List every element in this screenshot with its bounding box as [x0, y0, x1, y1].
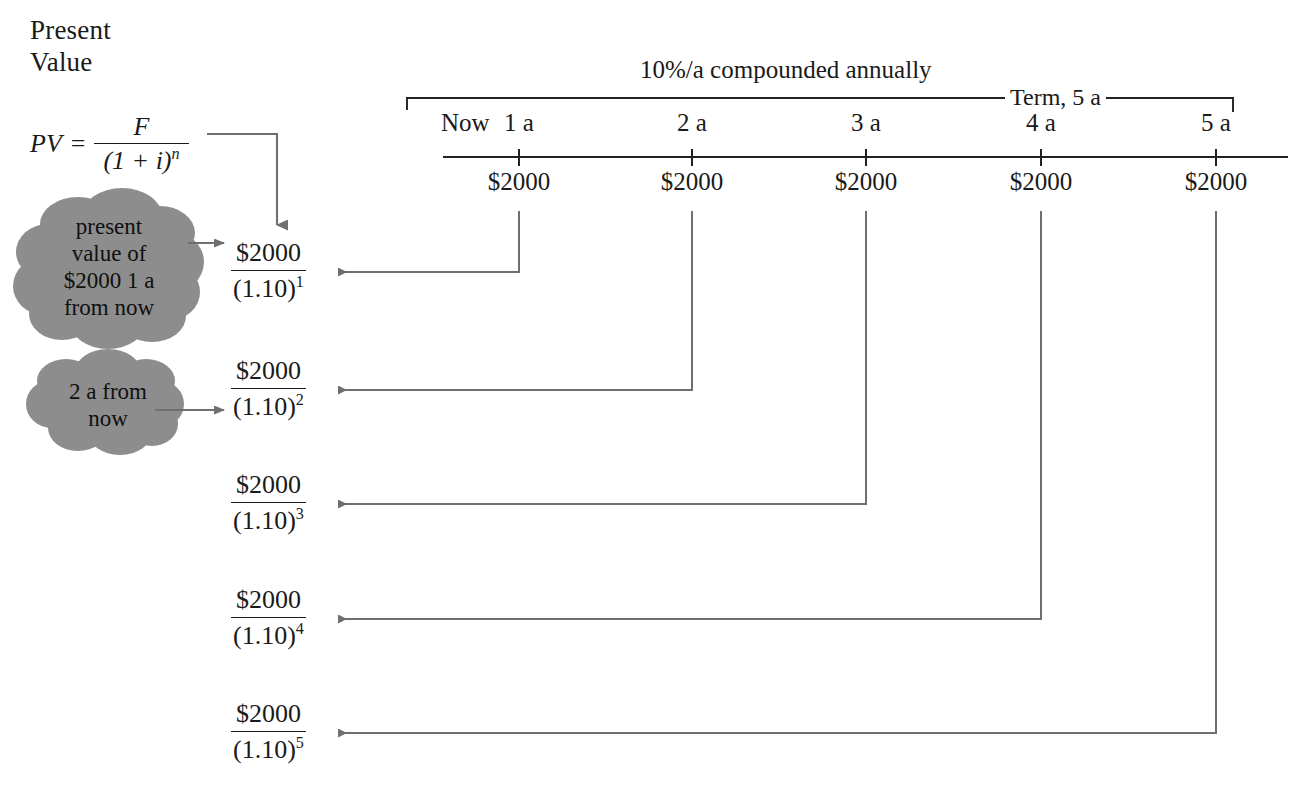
discount-connector-3: [338, 211, 866, 504]
pv-term-4-denominator: (1.10)4: [231, 617, 306, 651]
present-value-term-5: $2000 (1.10)5: [231, 699, 306, 765]
pv-term-3-numerator: $2000: [234, 470, 303, 502]
timeline-label-year-2: 2 a: [677, 109, 707, 137]
figure-heading: Present Value: [30, 14, 111, 78]
pv-term-5-base: (1.10): [233, 735, 296, 764]
pv-term-2-numerator: $2000: [234, 356, 303, 388]
interest-rate-label: 10%/a compounded annually: [640, 56, 932, 84]
present-value-term-3: $2000 (1.10)3: [231, 470, 306, 536]
pv-term-2-base: (1.10): [233, 392, 296, 421]
pv-formula-exponent: n: [172, 145, 180, 162]
present-value-term-2: $2000 (1.10)2: [231, 356, 306, 422]
discount-connector-2: [338, 211, 692, 390]
cash-flow-1: $2000: [488, 168, 551, 196]
cash-flow-5: $2000: [1185, 168, 1248, 196]
timeline-axis: [443, 149, 1288, 166]
pv-formula-numerator: F: [125, 112, 159, 143]
pv-term-1-exponent: 1: [296, 273, 304, 290]
figure-canvas: Present Value PV = F (1 + i)n 10%/a comp…: [0, 0, 1304, 799]
term-length-label: Term, 5 a: [1005, 84, 1106, 111]
pv-term-5-numerator: $2000: [234, 699, 303, 731]
timeline-label-year-3: 3 a: [851, 109, 881, 137]
pv-term-1-denominator: (1.10)1: [231, 270, 306, 304]
pv-formula-fraction: F (1 + i)n: [94, 112, 188, 176]
discount-connector-5: [338, 211, 1216, 733]
pv-term-3-denominator: (1.10)3: [231, 502, 306, 536]
pv-term-4-numerator: $2000: [234, 585, 303, 617]
pv-formula-denominator-base: (1 + i): [103, 146, 171, 175]
pv-term-1-numerator: $2000: [234, 238, 303, 270]
cash-flow-4: $2000: [1010, 168, 1073, 196]
pv-term-5-exponent: 5: [296, 734, 304, 751]
timeline-label-year-5: 5 a: [1201, 109, 1231, 137]
callout-2-text: 2 a from now: [46, 378, 170, 432]
cash-flow-3: $2000: [835, 168, 898, 196]
pv-term-4-exponent: 4: [296, 620, 304, 637]
pv-formula: PV = F (1 + i)n: [30, 112, 189, 176]
pv-term-2-denominator: (1.10)2: [231, 388, 306, 422]
pv-term-2-exponent: 2: [296, 391, 304, 408]
timeline-label-now: Now: [441, 109, 490, 137]
pv-formula-denominator: (1 + i)n: [94, 143, 188, 176]
formula-connector-arrow: [207, 134, 277, 225]
timeline-label-year-1: 1 a: [504, 109, 534, 137]
pv-term-1-base: (1.10): [233, 274, 296, 303]
discount-connector-1: [338, 211, 519, 272]
pv-formula-lhs: PV: [30, 129, 62, 159]
pv-term-5-denominator: (1.10)5: [231, 731, 306, 765]
pv-formula-equals: =: [69, 129, 88, 159]
present-value-term-1: $2000 (1.10)1: [231, 238, 306, 304]
cash-flow-2: $2000: [661, 168, 724, 196]
pv-term-3-exponent: 3: [296, 505, 304, 522]
diagram-vector-layer: [0, 0, 1304, 799]
pv-term-4-base: (1.10): [233, 621, 296, 650]
present-value-term-4: $2000 (1.10)4: [231, 585, 306, 651]
pv-term-3-base: (1.10): [233, 506, 296, 535]
callout-1-text: present value of $2000 1 a from now: [38, 213, 180, 321]
timeline-label-year-4: 4 a: [1026, 109, 1056, 137]
